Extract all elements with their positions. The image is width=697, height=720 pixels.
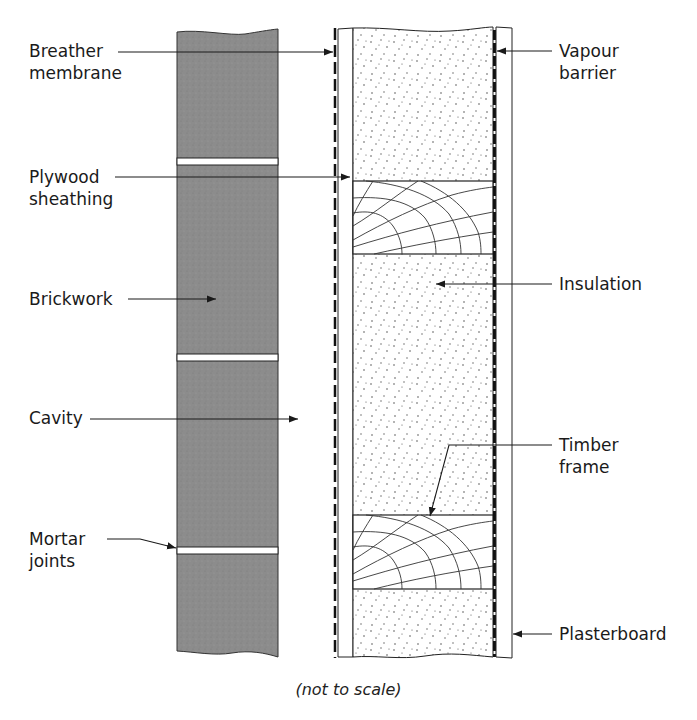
plasterboard (496, 27, 512, 658)
timber-frame-upper (353, 181, 493, 254)
plywood-sheathing (338, 28, 353, 657)
label-cavity: Cavity (29, 407, 83, 429)
label-insulation: Insulation (559, 273, 642, 295)
label-plasterboard: Plasterboard (559, 623, 666, 645)
mortar-joint (177, 547, 278, 554)
leader-mortar-joints (107, 539, 176, 548)
caption-not-to-scale: (not to scale) (0, 680, 697, 699)
brickwork-leaf (177, 29, 278, 657)
wall-section-diagram (0, 0, 697, 720)
brick-column (177, 29, 278, 657)
label-mortar-joints: Mortar joints (29, 528, 85, 572)
timber-frame-lower (353, 515, 493, 589)
label-timber-frame: Timber frame (559, 434, 618, 478)
label-plywood-sheathing: Plywood sheathing (29, 166, 113, 210)
label-brickwork: Brickwork (29, 288, 113, 310)
label-vapour-barrier: Vapour barrier (559, 40, 619, 84)
mortar-joint (177, 354, 278, 361)
label-breather-membrane: Breather membrane (29, 40, 122, 84)
mortar-joint (177, 158, 278, 165)
